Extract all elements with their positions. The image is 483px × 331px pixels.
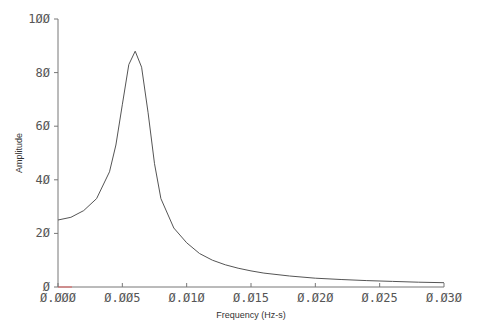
x-axis-title: Frequency (Hz-s)	[216, 310, 286, 320]
y-tick-label: 2Ø	[36, 226, 51, 240]
ticks: Ø2Ø4Ø6Ø8Ø1ØØØ.ØØØØ.ØØ5Ø.Ø1ØØ.Ø15Ø.Ø2ØØ.Ø…	[28, 12, 463, 305]
x-tick-label: Ø.Ø1Ø	[169, 291, 206, 305]
amplitude-frequency-chart: Ø2Ø4Ø6Ø8Ø1ØØØ.ØØØØ.ØØ5Ø.Ø1ØØ.Ø15Ø.Ø2ØØ.Ø…	[0, 0, 483, 331]
y-tick-label: 4Ø	[36, 173, 51, 187]
x-tick-label: Ø.Ø2Ø	[297, 291, 334, 305]
amplitude-curve	[58, 51, 444, 283]
x-tick-label: Ø.ØØ5	[104, 291, 140, 305]
y-tick-label: 1ØØ	[28, 12, 50, 26]
axes	[58, 19, 444, 287]
y-tick-label: 6Ø	[36, 119, 51, 133]
x-tick-label: Ø.Ø3Ø	[426, 291, 463, 305]
x-tick-label: Ø.Ø25	[362, 291, 398, 305]
x-tick-label: Ø.ØØØ	[40, 291, 77, 305]
y-axis-title: Amplitude	[14, 133, 24, 173]
x-tick-label: Ø.Ø15	[233, 291, 269, 305]
y-tick-label: 8Ø	[36, 66, 51, 80]
